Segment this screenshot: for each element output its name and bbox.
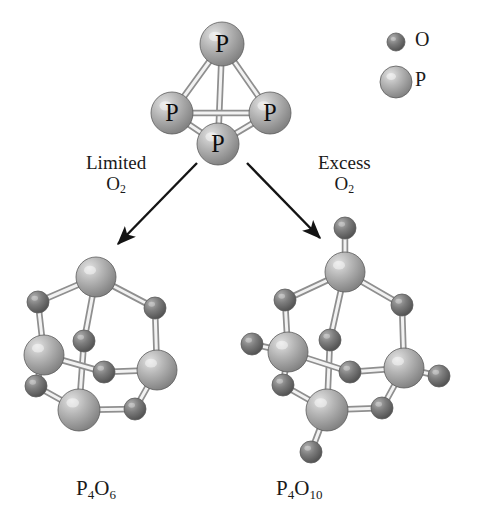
arrow-layer xyxy=(118,163,320,244)
p4o10-cage-atom-p-3 xyxy=(306,389,348,431)
limited-o2-label: Limited O2 xyxy=(86,152,146,197)
legend-layer xyxy=(380,33,412,98)
p4o6-cage-atom-o-4 xyxy=(27,291,49,313)
p4o6-cage-atom-p-0 xyxy=(76,257,116,297)
excess-o2-arrow xyxy=(247,163,320,238)
p4-tetrahedron-atom-p-3: P xyxy=(197,123,239,165)
excess-o2-label: Excess O2 xyxy=(318,152,371,197)
excess-o2-label-sub: 2 xyxy=(348,184,354,197)
p4o6-caption: P4O6 xyxy=(76,476,116,503)
excess-o2-label-line2: O xyxy=(335,173,349,194)
p4o10-cage-atom-o-8 xyxy=(272,374,294,396)
atom-label: P xyxy=(215,29,229,57)
figure-canvas: PPPP xyxy=(0,0,477,512)
limited-o2-label-sub: 2 xyxy=(120,184,126,197)
atom-label: P xyxy=(211,130,224,157)
p4-tetrahedron-atom-p-1: P xyxy=(151,92,193,134)
p4o10-cage-atom-o-11 xyxy=(241,333,263,355)
p4-tetrahedron-atom-p-2: P xyxy=(249,92,291,134)
p4o10-cage-atom-p-1 xyxy=(268,332,308,372)
limited-o2-label-line1: Limited xyxy=(86,152,146,173)
p4o10-cage-atom-p-2 xyxy=(384,348,424,388)
p4o10-cage-atom-o-12 xyxy=(428,365,450,387)
p4o6-cage-atom-o-9 xyxy=(124,398,146,420)
p4o6-cage-atom-p-3 xyxy=(58,389,100,431)
legend-label-oxygen: O xyxy=(415,28,429,51)
p4o6-cage-atom-o-8 xyxy=(25,375,47,397)
p4o10-cage-atom-o-6 xyxy=(319,329,341,351)
p4o10-cage-atom-o-9 xyxy=(371,397,393,419)
p4o6-cage-atom-p-2 xyxy=(137,350,177,390)
p4o6-cage-atom-o-7 xyxy=(93,361,115,383)
p4o10-cage-atom-p-0 xyxy=(325,252,365,292)
p4o10-cage-atom-o-5 xyxy=(391,294,413,316)
p4o10-caption: P4O10 xyxy=(276,476,322,503)
legend-sphere-phosphorus xyxy=(380,66,412,98)
p4o6-cage-atom-o-6 xyxy=(73,330,95,352)
legend-sphere-oxygen xyxy=(387,33,405,51)
p4o10-cage-atom-o-13 xyxy=(300,441,322,463)
atom-label: P xyxy=(263,99,276,126)
p4o6-cage-atom-o-5 xyxy=(144,297,166,319)
excess-o2-label-line1: Excess xyxy=(318,152,371,173)
p4o10-cage-atom-o-7 xyxy=(339,361,361,383)
bond-layer xyxy=(36,44,439,452)
limited-o2-label-line2: O xyxy=(106,173,120,194)
atom-label: P xyxy=(165,99,178,126)
p4-tetrahedron-atom-p-0: P xyxy=(200,22,244,66)
p4o6-cage-atom-p-1 xyxy=(24,335,64,375)
legend-label-phosphorus: P xyxy=(415,68,426,91)
p4o10-cage-atom-o-10 xyxy=(334,217,356,239)
p4o10-cage-atom-o-4 xyxy=(274,289,296,311)
